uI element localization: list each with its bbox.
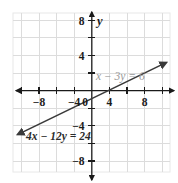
y-tick-label-4: 4 bbox=[79, 50, 85, 62]
equation-label-upper: x − 3y = 6 bbox=[95, 70, 145, 83]
x-tick-label--8: −8 bbox=[33, 96, 46, 108]
x-tick-label-4: 4 bbox=[107, 96, 113, 108]
coordinate-plane-svg: −8 −4 0 4 8 8 4 −4 −8 y x − 3y = 6 4x − … bbox=[0, 0, 178, 183]
equation-label-lower: 4x − 12y = 24 bbox=[25, 130, 91, 143]
x-tick-label--4: −4 bbox=[68, 96, 81, 108]
y-tick-label--8: −8 bbox=[72, 155, 85, 167]
x-tick-label-8: 8 bbox=[142, 96, 148, 108]
y-tick-label-8: 8 bbox=[79, 15, 85, 27]
x-tick-label-0: 0 bbox=[82, 96, 88, 108]
graph-figure: −8 −4 0 4 8 8 4 −4 −8 y x − 3y = 6 4x − … bbox=[0, 0, 178, 183]
y-axis-letter: y bbox=[95, 14, 103, 28]
